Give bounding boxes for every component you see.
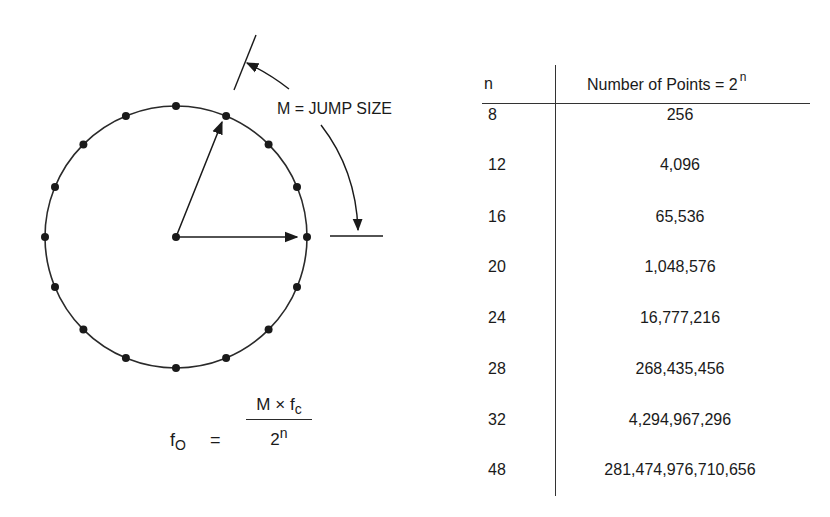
phase-point xyxy=(303,233,311,241)
table-row: 1665,536 xyxy=(470,208,830,228)
phase-point xyxy=(51,183,59,191)
table-row: 2416,777,216 xyxy=(470,309,830,329)
row-points-value: 268,435,456 xyxy=(560,360,800,378)
phase-point xyxy=(41,233,49,241)
phase-point xyxy=(79,326,87,334)
formula-lhs: fO xyxy=(170,430,186,453)
phase-point xyxy=(293,283,301,291)
phase-point xyxy=(122,354,130,362)
formula-equals: = xyxy=(210,430,221,451)
row-n-value: 20 xyxy=(488,258,506,276)
phase-point xyxy=(122,112,130,120)
phase-point xyxy=(51,283,59,291)
phase-point xyxy=(79,140,87,148)
phase-point xyxy=(265,326,273,334)
phase-point xyxy=(222,354,230,362)
row-n-value: 16 xyxy=(488,208,506,226)
jump-arc-arrow-upper xyxy=(247,63,289,89)
table-row: 28268,435,456 xyxy=(470,360,830,380)
row-points-value: 4,294,967,296 xyxy=(560,411,800,429)
row-points-value: 1,048,576 xyxy=(560,258,800,276)
table-row: 324,294,967,296 xyxy=(470,411,830,431)
table-row: 48281,474,976,710,656 xyxy=(470,461,830,481)
row-n-value: 8 xyxy=(488,106,497,124)
header-divider xyxy=(482,103,810,104)
fraction-bar xyxy=(246,419,312,420)
row-points-value: 256 xyxy=(560,106,800,124)
jump-arrow xyxy=(176,122,222,237)
phase-point xyxy=(172,364,180,372)
table-row: 8256 xyxy=(470,106,830,126)
column-divider xyxy=(555,65,556,496)
phase-point xyxy=(293,183,301,191)
formula-numerator: M × fc xyxy=(246,395,312,417)
jump-tick-line xyxy=(234,35,256,90)
column-header-points: Number of Points = 2n xyxy=(587,70,746,94)
formula-denominator: 2n xyxy=(246,425,312,450)
row-points-value: 4,096 xyxy=(560,156,800,174)
phase-point xyxy=(172,102,180,110)
row-n-value: 24 xyxy=(488,309,506,327)
jump-arc-arrow-lower xyxy=(321,125,358,230)
phase-point xyxy=(265,140,273,148)
row-points-value: 281,474,976,710,656 xyxy=(560,461,800,479)
row-points-value: 65,536 xyxy=(560,208,800,226)
phase-point xyxy=(222,112,230,120)
column-header-n: n xyxy=(484,75,493,93)
table-row: 124,096 xyxy=(470,156,830,176)
output-frequency-formula: fO = M × fc 2n xyxy=(170,395,410,485)
row-n-value: 48 xyxy=(488,461,506,479)
row-n-value: 12 xyxy=(488,156,506,174)
jump-size-label: M = JUMP SIZE xyxy=(277,100,392,118)
table-row: 201,048,576 xyxy=(470,258,830,278)
row-n-value: 32 xyxy=(488,411,506,429)
row-points-value: 16,777,216 xyxy=(560,309,800,327)
row-n-value: 28 xyxy=(488,360,506,378)
